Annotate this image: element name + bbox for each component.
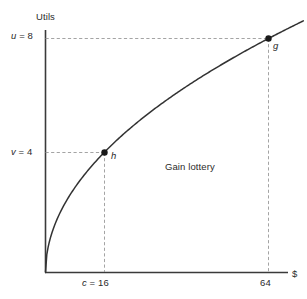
y-tick-u-value: 8 (28, 30, 33, 41)
gain-lottery-annotation: Gain lottery (165, 162, 215, 172)
x-axis-title: $ (292, 269, 297, 279)
x-tick-c-variable: c (82, 277, 87, 288)
y-tick-u-operator: = (19, 30, 25, 41)
data-point-h (101, 149, 107, 155)
plot-canvas (0, 0, 307, 299)
y-tick-label-v4: v = 4 (11, 147, 32, 157)
y-tick-u-variable: u (11, 30, 16, 41)
y-tick-label-u8: u = 8 (11, 31, 33, 41)
x-tick-c-value: 16 (98, 277, 109, 288)
y-tick-v-variable: v (11, 146, 16, 157)
x-tick-label-64: 64 (260, 278, 271, 288)
data-point-g-label: g (273, 41, 278, 51)
utility-curve (46, 21, 304, 273)
x-tick-c-operator: = (90, 277, 96, 288)
x-tick-label-c16: c = 16 (82, 278, 109, 288)
y-tick-v-value: 4 (27, 146, 32, 157)
data-point-g (265, 35, 271, 41)
data-point-h-label: h (111, 151, 116, 161)
y-axis-title: Utils (36, 12, 55, 22)
y-tick-v-operator: = (19, 146, 25, 157)
utility-function-chart: Utils u = 8 v = 4 c = 16 64 $ g h Gain l… (0, 0, 307, 299)
